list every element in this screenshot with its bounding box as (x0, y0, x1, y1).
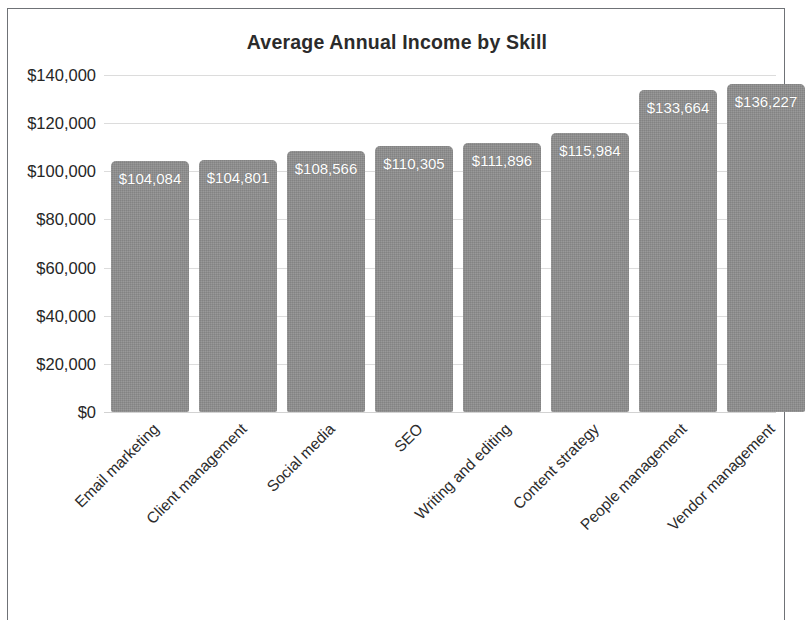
y-axis-tick-label: $40,000 (0, 306, 96, 325)
x-axis-tick-text: SEO (391, 420, 427, 456)
y-axis-tick-label: $120,000 (0, 114, 96, 133)
y-axis-tick-label: $100,000 (0, 162, 96, 181)
bar-value-label: $108,566 (287, 160, 365, 177)
bar[interactable]: $104,084 (111, 161, 189, 412)
y-axis-tick-label: $140,000 (0, 66, 96, 85)
bar[interactable]: $108,566 (287, 151, 365, 412)
bar-texture (199, 160, 277, 412)
bar-texture (727, 84, 805, 412)
y-axis-tick-label: $60,000 (0, 258, 96, 277)
bar-texture (375, 146, 453, 412)
bar-value-label: $133,664 (639, 99, 717, 116)
bar-value-label: $136,227 (727, 93, 805, 110)
bar[interactable]: $104,801 (199, 160, 277, 412)
bar-value-label: $111,896 (463, 152, 541, 169)
bar-texture (639, 90, 717, 412)
x-axis: Email marketingClient managementSocial m… (104, 412, 784, 612)
x-axis-tick-text: Email marketing (71, 420, 162, 511)
bar-value-label: $110,305 (375, 155, 453, 172)
bar-value-label: $115,984 (551, 142, 629, 159)
bars-layer: $104,084$104,801$108,566$110,305$111,896… (104, 75, 784, 412)
x-axis-tick-text: Social media (263, 420, 338, 495)
y-axis: $140,000$120,000$100,000$80,000$60,000$4… (8, 75, 96, 412)
bar-texture (551, 133, 629, 412)
plot-area: $104,084$104,801$108,566$110,305$111,896… (104, 75, 784, 412)
bar-texture (111, 161, 189, 412)
y-axis-tick-label: $0 (0, 403, 96, 422)
bar[interactable]: $111,896 (463, 143, 541, 412)
bar[interactable]: $110,305 (375, 146, 453, 412)
chart-title: Average Annual Income by Skill (8, 31, 786, 54)
x-axis-tick-text: Writing and editing (411, 420, 514, 523)
bar-value-label: $104,801 (199, 169, 277, 186)
y-axis-tick-label: $80,000 (0, 210, 96, 229)
chart-figure: Average Annual Income by Skill $140,000$… (7, 8, 785, 620)
bar-texture (287, 151, 365, 412)
bar[interactable]: $115,984 (551, 133, 629, 412)
y-axis-tick-label: $20,000 (0, 354, 96, 373)
bar-texture (463, 143, 541, 412)
bar[interactable]: $133,664 (639, 90, 717, 412)
bar[interactable]: $136,227 (727, 84, 805, 412)
bar-value-label: $104,084 (111, 170, 189, 187)
x-axis-tick-text: Content strategy (510, 420, 603, 513)
